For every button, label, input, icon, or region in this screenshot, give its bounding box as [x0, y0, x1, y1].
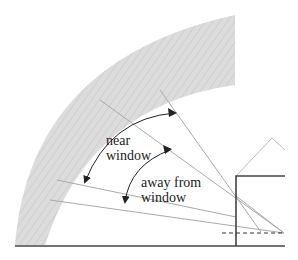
roof-line [236, 138, 285, 176]
away-window-label-line2: window [141, 190, 187, 205]
sight-line-1 [160, 90, 261, 232]
building-wall [236, 176, 285, 246]
away-window-label-line1: away from [141, 175, 201, 190]
near-window-arrowhead-top [168, 108, 177, 117]
sky-view-diagram: near window away from window [0, 0, 298, 260]
sight-line-2 [100, 100, 284, 233]
near-window-label-line1: near [106, 133, 130, 148]
near-window-label-line2: window [106, 148, 152, 163]
